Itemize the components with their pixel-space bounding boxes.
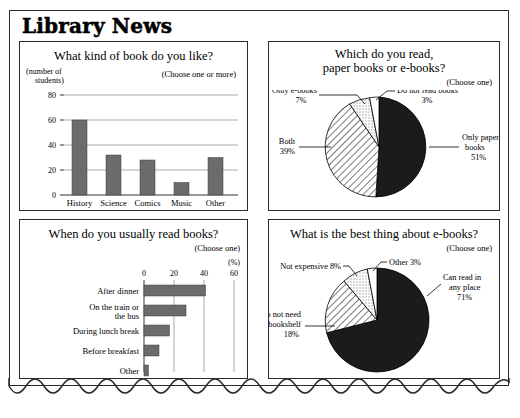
chart1-title: What kind of book do you like? [20, 49, 247, 63]
chart1-xtick-science: Science [100, 198, 127, 208]
chart2-value-both: 39% [280, 147, 295, 156]
library-news-poster: Library News What kind of book do you li… [0, 0, 520, 418]
chart2-note: (Choose one) [269, 77, 499, 87]
chart1-ytick-60: 60 [48, 116, 56, 125]
chart1-bar-comics [140, 160, 155, 195]
chart4-plot: Not expensive 8% Other 3% Do not need a … [269, 254, 501, 376]
chart3-unit-label: (%) [228, 258, 240, 267]
chart3-bar-after-dinner [144, 285, 206, 296]
chart1-ytick-40: 40 [48, 141, 56, 150]
chart1-bar-music [174, 183, 189, 196]
chart3-plot: (%) 0 20 40 60 After dinner On the train… [20, 256, 249, 378]
chart3-xtick-0: 0 [142, 269, 146, 278]
chart3-cat-before-breakfast: Before breakfast [83, 346, 140, 356]
chart1-plot: 80 60 40 20 0 History Science Comics Mus… [20, 87, 249, 213]
chart4-label-any-place-2: any place [449, 283, 481, 292]
chart4-leader-any-place [427, 284, 441, 296]
wavy-bottom-edge [0, 378, 520, 418]
chart1-xtick-comics: Comics [135, 198, 161, 208]
chart2-value-do-not-read: 3% [421, 96, 432, 105]
panel-paper-vs-ebooks: Which do you read, paper books or e-book… [268, 41, 500, 211]
chart3-cat-train-2: the bus [115, 311, 139, 321]
chart3-xtick-40: 40 [200, 269, 208, 278]
chart1-xtick-music: Music [171, 198, 192, 208]
chart3-bar-before-breakfast [144, 345, 159, 356]
chart2-label-do-not-read: Do not read books [397, 90, 458, 95]
chart1-unit-label: (number of students) [26, 67, 64, 85]
chart2-label-only-paper-2: books [465, 143, 485, 152]
chart2-plot: Only e-books 7% Do not read books 3% Bot… [269, 90, 501, 208]
chart4-label-any-place-1: Can read in [443, 273, 482, 282]
chart4-title: What is the best thing about e-books? [269, 227, 499, 241]
chart2-label-only-ebooks: Only e-books [272, 90, 317, 95]
chart1-ytick-80: 80 [48, 91, 56, 100]
chart3-cat-other: Other [120, 366, 140, 376]
chart4-label-no-bookshelf-1: Do not need [269, 310, 302, 319]
chart3-bar-lunch-break [144, 325, 170, 336]
chart3-cat-after-dinner: After dinner [97, 286, 139, 296]
chart3-bar-train-or-bus [144, 305, 186, 316]
chart3-title: When do you usually read books? [20, 227, 247, 241]
panel-ebook-benefit: What is the best thing about e-books? (C… [268, 219, 500, 379]
chart1-bar-other [208, 158, 223, 196]
chart1-ytick-20: 20 [48, 166, 56, 175]
chart4-label-other: Other 3% [389, 258, 421, 267]
page-title: Library News [22, 14, 172, 38]
panel-when-read: When do you usually read books? (Choose … [19, 219, 248, 379]
chart4-note: (Choose one) [269, 243, 499, 253]
chart1-bar-history [72, 120, 87, 195]
panel-book-kind: What kind of book do you like? (number o… [19, 41, 248, 211]
chart4-label-no-bookshelf-2: a bookshelf [269, 320, 301, 329]
chart3-note: (Choose one) [20, 243, 247, 253]
chart1-xtick-other: Other [206, 198, 226, 208]
chart2-value-only-ebooks: 7% [295, 96, 306, 105]
chart4-label-not-expensive: Not expensive 8% [280, 262, 341, 271]
chart4-value-any-place: 71% [457, 293, 472, 302]
chart4-value-no-bookshelf: 18% [284, 330, 299, 339]
chart1-xtick-history: History [67, 198, 93, 208]
chart1-note: (Choose one or more) [162, 69, 243, 79]
chart3-xtick-20: 20 [170, 269, 178, 278]
chart2-title-line1: Which do you read, [269, 47, 499, 61]
chart1-bar-science [106, 155, 121, 195]
chart3-cat-lunch-break: During lunch break [73, 326, 140, 336]
chart3-xtick-60: 60 [230, 269, 238, 278]
chart2-slice-only-paper [376, 97, 426, 197]
chart2-label-both: Both [279, 137, 296, 146]
chart2-label-only-paper: Only paper [462, 133, 499, 142]
chart1-ytick-0: 0 [52, 191, 56, 200]
chart3-bar-other [144, 365, 149, 376]
chart2-title-line2: paper books or e-books? [269, 61, 499, 75]
chart2-value-only-paper: 51% [471, 153, 486, 162]
